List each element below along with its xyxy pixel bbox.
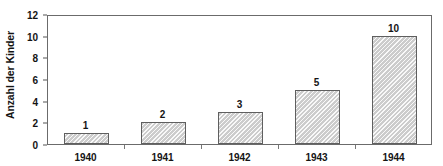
y-tick-label: 10: [27, 31, 38, 42]
y-axis-title-text: Anzahl der Kinder: [4, 31, 16, 119]
x-tick-label: 1944: [382, 152, 404, 163]
bar: [141, 122, 186, 144]
x-tick-mark: [355, 145, 356, 149]
bar: [218, 112, 263, 145]
bar: [295, 90, 340, 144]
y-axis-tick-labels: 024681012: [20, 0, 42, 166]
x-tick-mark: [278, 145, 279, 149]
x-tick-label: 1940: [74, 152, 96, 163]
bar-chart: Anzahl der Kinder 024681012 123510 19401…: [0, 0, 443, 166]
bar: [64, 133, 109, 144]
y-axis-title: Anzahl der Kinder: [0, 0, 20, 150]
y-tick-label: 6: [32, 75, 38, 86]
x-tick-mark: [201, 145, 202, 149]
x-tick-label: 1943: [305, 152, 327, 163]
bar-value-label: 3: [237, 99, 243, 110]
bar-value-label: 2: [160, 109, 166, 120]
bar-value-label: 10: [388, 23, 399, 34]
x-tick-label: 1941: [151, 152, 173, 163]
y-tick-label: 0: [32, 140, 38, 151]
plot-area: [47, 15, 432, 145]
bar-value-label: 1: [83, 120, 89, 131]
bar: [372, 36, 417, 144]
y-tick-label: 4: [32, 96, 38, 107]
y-tick-label: 12: [27, 10, 38, 21]
x-tick-mark: [124, 145, 125, 149]
x-tick-label: 1942: [228, 152, 250, 163]
bar-value-label: 5: [314, 77, 320, 88]
y-tick-label: 8: [32, 53, 38, 64]
y-tick-label: 2: [32, 118, 38, 129]
